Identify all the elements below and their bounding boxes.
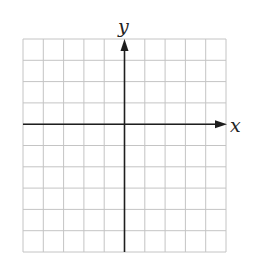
coordinate-grid: x y <box>0 0 253 257</box>
x-axis-label: x <box>230 114 241 136</box>
y-axis-label: y <box>117 15 129 37</box>
x-axis-arrow-icon <box>215 120 227 128</box>
y-axis-arrow-icon <box>121 39 129 51</box>
